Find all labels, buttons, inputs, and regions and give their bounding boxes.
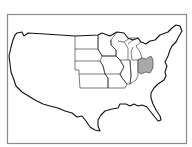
us-map — [0, 0, 192, 147]
state-ohio-highlighted — [138, 56, 153, 74]
